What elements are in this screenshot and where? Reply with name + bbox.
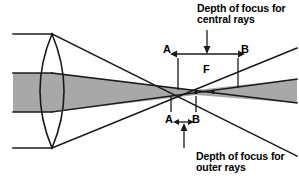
caption-depth-of-focus-central: Depth of focus for central rays [197, 3, 286, 26]
caption-depth-of-focus-outer: Depth of focus for outer rays [196, 151, 285, 174]
label-point-b-bottom: B [192, 114, 200, 126]
label-point-a-bottom: A [165, 114, 173, 126]
caption-central-arrowhead [204, 46, 211, 54]
central-beam-incoming [13, 73, 52, 112]
dof-outer-arrow-left [173, 119, 179, 125]
label-point-a-top: A [163, 44, 171, 56]
dof-central-arrow-left [170, 51, 177, 58]
label-point-b-top: B [241, 44, 249, 56]
label-focal-point: F [203, 64, 210, 76]
caption-outer-arrowhead [181, 123, 188, 131]
focus-dot-far [211, 90, 215, 94]
figure-canvas: B ======== --> Depth of focus for centra… [0, 0, 299, 181]
central-beam-converging [52, 73, 196, 112]
focus-dot-near [194, 91, 198, 95]
